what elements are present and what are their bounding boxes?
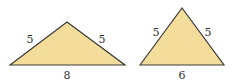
triangle-1-left-side-label: 5 — [27, 33, 34, 46]
triangle-1-right-side-label: 5 — [99, 33, 106, 46]
triangle-1: 5 5 8 — [10, 22, 125, 81]
triangles-diagram: 5 5 8 5 5 6 — [0, 0, 237, 81]
triangle-2-base-label: 6 — [179, 69, 186, 81]
triangle-2-right-side-label: 5 — [205, 26, 212, 39]
triangle-2: 5 5 6 — [140, 8, 224, 81]
triangle-2-left-side-label: 5 — [153, 26, 160, 39]
triangle-1-base-label: 8 — [64, 69, 71, 81]
